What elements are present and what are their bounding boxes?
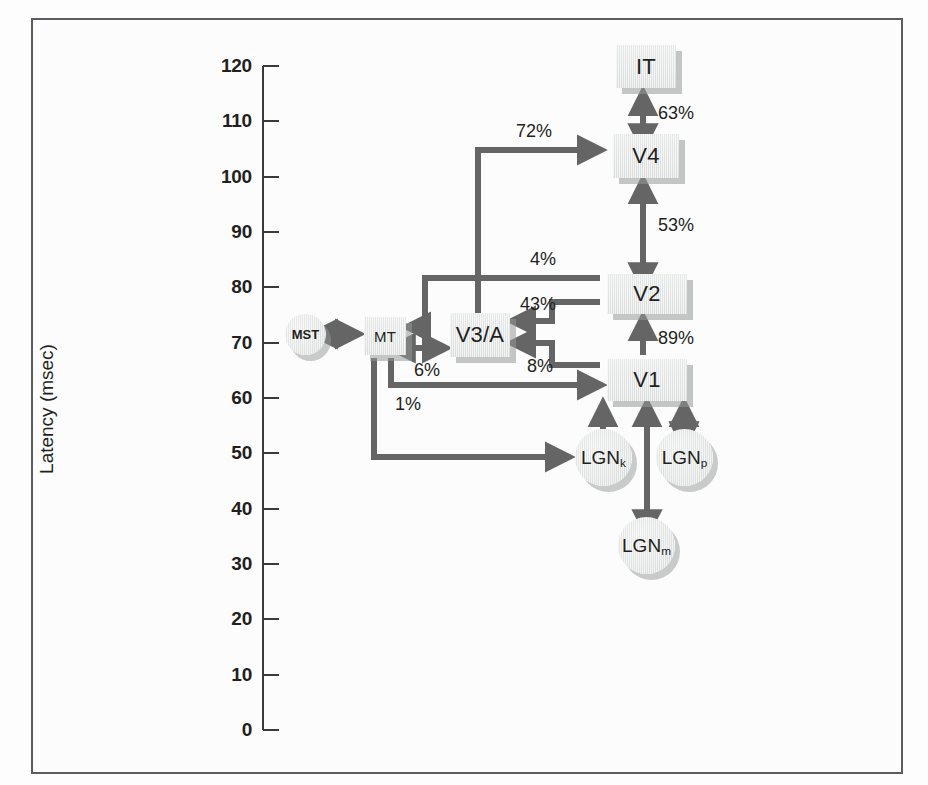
edge-label-72: 72% — [516, 121, 552, 142]
node-lgnk[interactable]: LGNk — [575, 429, 632, 486]
node-mst[interactable]: MST — [285, 314, 326, 355]
node-v1[interactable]: V1 — [607, 359, 687, 401]
edge-label-89: 89% — [658, 328, 694, 349]
y-axis-title: Latency (msec) — [36, 299, 58, 519]
tick-label-90: 90 — [196, 221, 252, 243]
edge-label-4: 4% — [530, 249, 556, 270]
figure-frame — [31, 18, 903, 774]
figure-root: 120 110 100 90 80 70 60 50 40 30 20 10 0… — [0, 0, 928, 785]
edge-label-63: 63% — [658, 103, 694, 124]
node-v3a[interactable]: V3/A — [450, 313, 510, 357]
tick-label-110: 110 — [196, 110, 252, 132]
tick-label-80: 80 — [196, 276, 252, 298]
node-v2[interactable]: V2 — [607, 274, 687, 314]
node-it-label: IT — [636, 56, 656, 78]
node-it[interactable]: IT — [616, 45, 676, 88]
tick-label-100: 100 — [196, 166, 252, 188]
node-v4-label: V4 — [632, 145, 659, 167]
tick-label-20: 20 — [196, 608, 252, 630]
tick-label-0: 0 — [196, 719, 252, 741]
tick-label-10: 10 — [196, 664, 252, 686]
node-mt[interactable]: MT — [364, 317, 406, 355]
edge-label-6: 6% — [414, 360, 440, 381]
node-lgnm[interactable]: LGNm — [618, 517, 675, 574]
node-lgnp-label: LGNp — [662, 448, 708, 467]
tick-label-30: 30 — [196, 553, 252, 575]
node-mst-label: MST — [292, 328, 319, 341]
node-v2-label: V2 — [633, 283, 660, 305]
node-v1-label: V1 — [633, 369, 660, 391]
node-v3a-label: V3/A — [456, 324, 505, 346]
edge-label-53: 53% — [658, 215, 694, 236]
edge-label-43: 43% — [520, 294, 556, 315]
node-v4[interactable]: V4 — [613, 134, 679, 178]
edge-label-1: 1% — [395, 394, 421, 415]
edge-label-8: 8% — [527, 356, 553, 377]
node-mt-label: MT — [374, 329, 396, 344]
node-lgnk-label: LGNk — [581, 448, 626, 467]
tick-label-120: 120 — [196, 55, 252, 77]
tick-label-50: 50 — [196, 442, 252, 464]
node-lgnp[interactable]: LGNp — [656, 429, 713, 486]
tick-label-60: 60 — [196, 387, 252, 409]
tick-label-70: 70 — [196, 332, 252, 354]
tick-label-40: 40 — [196, 498, 252, 520]
node-lgnm-label: LGNm — [622, 536, 671, 555]
